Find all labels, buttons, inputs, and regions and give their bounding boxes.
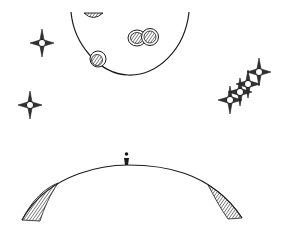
figure-head [125,152,129,156]
crater-icon [90,51,106,67]
planet-shading-right [208,185,242,219]
figure-body [124,158,129,165]
planet [22,165,242,221]
crater-icon [142,29,159,46]
figure [124,152,129,165]
star-icon [30,29,54,57]
crater-icon [84,13,103,18]
star-icon [18,91,42,119]
moon [71,12,189,75]
sketch-scene [0,0,286,231]
planet-shading-left [22,183,58,221]
planet-horizon [22,165,242,220]
